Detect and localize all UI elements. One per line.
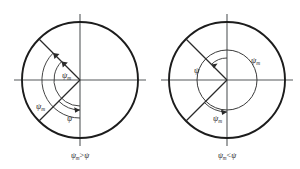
- right-label-psi-m-right-subscript: m: [256, 60, 260, 66]
- left-label-psi: ψ: [67, 113, 73, 123]
- left-radial-lower-left: [39, 80, 80, 121]
- right-label-psi-m-lower: ψm: [213, 113, 222, 124]
- left-arc-psi-lower-arrowhead: [74, 107, 80, 113]
- right-caption-rhs: ψ: [231, 151, 237, 160]
- left-label-psi-m-lower: ψm: [36, 101, 45, 112]
- right-label-psi-m-lower-subscript: m: [218, 118, 222, 124]
- right-radial-upper-left: [186, 39, 227, 80]
- right-label-psi-m-right: ψm: [251, 55, 260, 66]
- left-label-psi-symbol: ψ: [67, 113, 73, 123]
- panel-right: ψ ψm ψm ψm<ψ: [161, 14, 293, 161]
- right-label-psi-symbol: ψ: [194, 65, 200, 75]
- left-radial-upper-left: [39, 39, 80, 80]
- right-label-psi: ψ: [194, 65, 200, 75]
- left-caption-rhs: ψ: [84, 151, 90, 160]
- left-caption: ψm>ψ: [71, 151, 90, 161]
- right-arc-psi-upper: [211, 58, 227, 64]
- phase-angle-figure: ψm ψm ψ ψm>ψ: [0, 0, 300, 169]
- left-label-psi-m-upper: ψm: [62, 70, 71, 81]
- right-caption: ψm<ψ: [218, 151, 237, 161]
- left-label-psi-m-upper-subscript: m: [67, 75, 71, 81]
- panel-left: ψm ψm ψ ψm>ψ: [14, 14, 146, 161]
- left-label-psi-m-lower-subscript: m: [41, 106, 45, 112]
- figure-root: ψm ψm ψ ψm>ψ: [0, 0, 300, 169]
- right-radial-lower-left: [186, 80, 227, 121]
